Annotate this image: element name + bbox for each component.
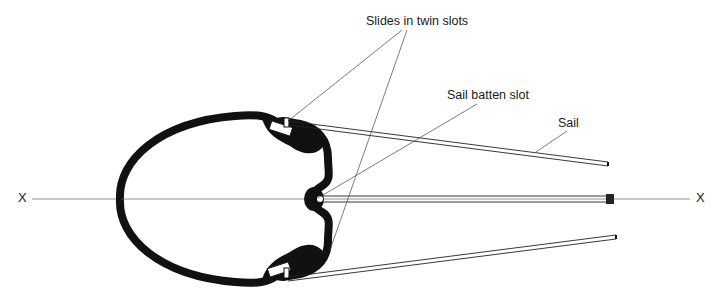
leader-slides-top xyxy=(288,30,402,121)
axis-marker-left: X xyxy=(18,191,27,205)
label-sail: Sail xyxy=(558,116,579,130)
sail-lower xyxy=(288,235,616,281)
mast-section-diagram xyxy=(0,0,722,304)
label-sail-batten-slot: Sail batten slot xyxy=(447,88,529,102)
axis-marker-right: X xyxy=(696,191,705,205)
leader-sail xyxy=(536,131,567,152)
leader-slides-bottom xyxy=(330,30,407,250)
label-slides-in-twin-slots: Slides in twin slots xyxy=(366,14,468,28)
leader-batten xyxy=(318,104,477,198)
